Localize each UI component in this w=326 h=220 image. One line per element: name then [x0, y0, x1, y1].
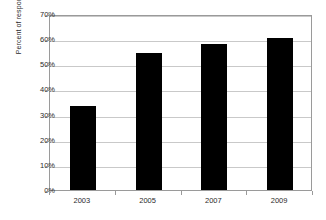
- y-axis-tick-mark: [45, 15, 49, 16]
- y-axis-tick-label: 60%: [27, 36, 55, 44]
- x-axis-tick-label: 2009: [249, 196, 309, 205]
- y-axis-tick-mark: [45, 116, 49, 117]
- y-axis-tick-label: 40%: [27, 86, 55, 94]
- x-axis-tick-label: 2003: [52, 196, 112, 205]
- x-axis-tick-label: 2005: [118, 196, 178, 205]
- bar: [267, 38, 293, 190]
- y-axis-tick-label: 0%: [27, 187, 55, 195]
- x-axis-tick-mark: [115, 191, 116, 195]
- y-axis-tick-label: 50%: [27, 61, 55, 69]
- y-axis-tick-mark: [45, 40, 49, 41]
- y-axis-tick-mark: [45, 141, 49, 142]
- y-axis-tick-mark: [45, 166, 49, 167]
- y-axis-title: Percent of respondents: [13, 0, 25, 72]
- bar: [136, 53, 162, 190]
- x-axis-tick-mark: [181, 191, 182, 195]
- y-axis-tick-mark: [45, 65, 49, 66]
- y-axis-tick-label: 30%: [27, 112, 55, 120]
- bar: [201, 44, 227, 190]
- bar-chart: Percent of respondents 0%10%20%30%40%50%…: [0, 0, 326, 220]
- y-axis-tick-label: 70%: [27, 11, 55, 19]
- x-axis-tick-label: 2007: [183, 196, 243, 205]
- gridline: [50, 16, 311, 17]
- y-axis-tick-label: 20%: [27, 137, 55, 145]
- bar: [70, 106, 96, 190]
- x-axis-tick-mark: [246, 191, 247, 195]
- y-axis-tick-label: 10%: [27, 162, 55, 170]
- x-axis-tick-mark: [49, 191, 50, 195]
- x-axis-tick-mark: [312, 191, 313, 195]
- y-axis-tick-mark: [45, 90, 49, 91]
- plot-area: [49, 15, 312, 191]
